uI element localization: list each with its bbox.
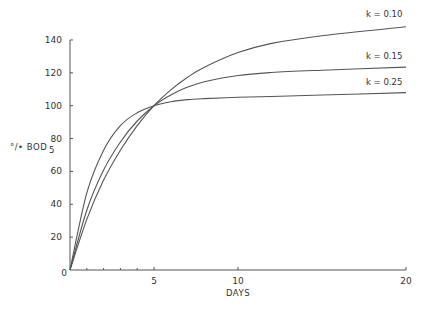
y-axis-title: °/• BOD xyxy=(10,142,47,152)
y-tick-label: 140 xyxy=(45,35,62,45)
axes: 20406080100120140051020 xyxy=(45,35,412,286)
curves xyxy=(70,27,406,270)
x-tick-label: 20 xyxy=(400,276,412,286)
y-tick-label: 120 xyxy=(45,68,62,78)
curve-010 xyxy=(70,27,406,270)
y-tick-label: 60 xyxy=(51,166,63,176)
y-tick-label: 80 xyxy=(51,134,63,144)
y-tick-label: 40 xyxy=(51,199,63,209)
y-tick-label: 100 xyxy=(45,101,62,111)
x-tick-label: 5 xyxy=(151,276,157,286)
curve-025 xyxy=(70,93,406,270)
series-label: k = 0.25 xyxy=(366,77,402,87)
series-label: k = 0.15 xyxy=(366,51,402,61)
x-axis-title: DAYS xyxy=(226,288,250,298)
origin-label: 0 xyxy=(61,268,67,278)
y-tick-label: 20 xyxy=(51,232,63,242)
labels: DAYS°/• BOD5k = 0.10k = 0.15k = 0.25 xyxy=(10,9,402,298)
y-axis-title-subscript: 5 xyxy=(49,145,55,155)
bod-chart: 20406080100120140051020 DAYS°/• BOD5k = … xyxy=(0,0,430,311)
x-tick-label: 10 xyxy=(232,276,244,286)
series-label: k = 0.10 xyxy=(366,9,402,19)
